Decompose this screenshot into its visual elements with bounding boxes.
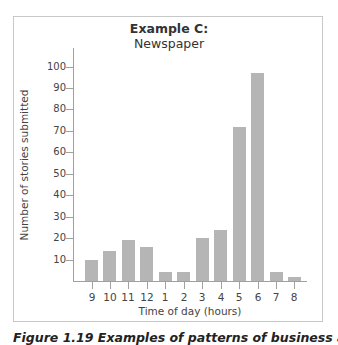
x-tick-label: 10 <box>100 291 120 303</box>
x-tick <box>184 282 185 289</box>
x-tick <box>276 282 277 289</box>
y-tick-label: 10 <box>36 255 66 265</box>
x-tick <box>110 282 111 289</box>
y-axis <box>73 48 74 282</box>
x-tick-label: 6 <box>248 291 268 303</box>
x-tick-label: 1 <box>155 291 175 303</box>
y-tick-label: 100 <box>36 62 66 72</box>
bar-3 <box>196 238 209 281</box>
bar-5 <box>233 127 246 281</box>
x-axis-label: Time of day (hours) <box>73 305 307 317</box>
y-tick-label: 30 <box>36 212 66 222</box>
y-tick <box>66 195 73 196</box>
x-tick-label: 11 <box>118 291 138 303</box>
x-tick <box>128 282 129 289</box>
x-tick <box>239 282 240 289</box>
bar-7 <box>270 272 283 281</box>
bar-6 <box>251 73 264 281</box>
y-tick-label: 50 <box>36 169 66 179</box>
bar-9 <box>85 260 98 281</box>
bar-12 <box>140 247 153 281</box>
x-tick-label: 3 <box>192 291 212 303</box>
y-tick <box>66 152 73 153</box>
y-tick <box>66 131 73 132</box>
x-tick-label: 2 <box>174 291 194 303</box>
y-tick <box>66 67 73 68</box>
x-axis <box>73 281 307 282</box>
x-tick <box>294 282 295 289</box>
y-tick <box>66 88 73 89</box>
chart-title-line2: Newspaper <box>0 36 338 51</box>
y-tick <box>66 238 73 239</box>
x-tick <box>202 282 203 289</box>
x-tick-label: 12 <box>137 291 157 303</box>
y-tick <box>66 260 73 261</box>
x-tick <box>165 282 166 289</box>
x-tick-label: 5 <box>229 291 249 303</box>
y-tick-label: 60 <box>36 147 66 157</box>
bar-2 <box>177 272 190 281</box>
y-tick-label: 90 <box>36 83 66 93</box>
x-tick-label: 8 <box>284 291 304 303</box>
y-tick-label: 70 <box>36 126 66 136</box>
figure-caption: Figure 1.19 Examples of patterns of busi… <box>13 330 338 345</box>
x-tick <box>258 282 259 289</box>
y-tick <box>66 109 73 110</box>
y-tick-label: 40 <box>36 190 66 200</box>
bar-8 <box>288 277 301 281</box>
bar-10 <box>103 251 116 281</box>
bar-4 <box>214 230 227 281</box>
x-tick-label: 9 <box>82 291 102 303</box>
y-tick-label: 80 <box>36 104 66 114</box>
x-tick-label: 7 <box>266 291 286 303</box>
x-tick <box>92 282 93 289</box>
x-tick-label: 4 <box>211 291 231 303</box>
y-tick <box>66 174 73 175</box>
chart-title-line1: Example C: <box>0 21 338 36</box>
y-tick <box>66 217 73 218</box>
bar-1 <box>159 272 172 281</box>
x-tick <box>221 282 222 289</box>
y-tick-label: 20 <box>36 233 66 243</box>
x-tick <box>147 282 148 289</box>
bar-11 <box>122 240 135 281</box>
chart-title: Example C: Newspaper <box>0 21 338 51</box>
